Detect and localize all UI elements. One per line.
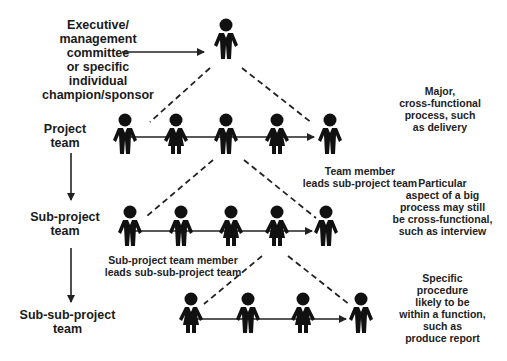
male-person-icon	[318, 114, 342, 155]
male-person-icon	[214, 19, 238, 60]
male-person-icon	[214, 114, 238, 155]
dashed-line-exec-left	[150, 68, 210, 122]
male-person-icon	[349, 293, 373, 334]
male-person-icon	[118, 206, 142, 247]
female-person-icon	[164, 114, 188, 155]
male-person-icon	[236, 293, 260, 334]
hierarchy-diagram	[0, 0, 507, 361]
female-person-icon	[219, 206, 243, 247]
male-person-icon	[169, 206, 193, 247]
female-person-icon	[265, 206, 289, 247]
male-person-icon	[113, 114, 137, 155]
female-person-icon	[291, 293, 315, 334]
female-person-icon	[265, 114, 289, 155]
female-person-icon	[179, 293, 203, 334]
male-person-icon	[314, 206, 338, 247]
